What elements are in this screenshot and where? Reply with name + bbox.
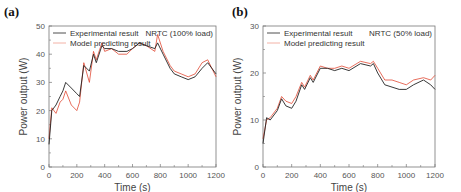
x-tick-label: 600 xyxy=(342,171,356,180)
model-series-line xyxy=(49,35,216,139)
x-tick-label: 1200 xyxy=(426,171,444,180)
y-axis-title: Power output (W) xyxy=(18,58,29,136)
x-tick-label: 1000 xyxy=(397,171,415,180)
y-axis-title: Power output (W) xyxy=(232,58,243,136)
x-tick-label: 800 xyxy=(371,171,385,180)
y-tick-label: 50 xyxy=(36,22,45,31)
x-tick-label: 1200 xyxy=(207,171,225,180)
y-tick-label: 30 xyxy=(36,78,45,87)
x-axis-title: Time (s) xyxy=(331,182,367,192)
x-tick-label: 600 xyxy=(126,171,140,180)
y-tick-label: 10 xyxy=(250,116,259,125)
legend-experimental-label: Experimental result xyxy=(284,29,353,38)
x-tick-label: 400 xyxy=(98,171,112,180)
y-tick-label: 20 xyxy=(250,69,259,78)
y-tick-label: 10 xyxy=(36,135,45,144)
x-tick-label: 200 xyxy=(285,171,299,180)
legend-model-label: Model predicting result xyxy=(284,39,365,48)
experimental-series-line xyxy=(49,43,216,144)
x-tick-label: 800 xyxy=(154,171,168,180)
y-tick-label: 30 xyxy=(250,22,259,31)
chart-a: 02004006008001000120001020304050Time (s)… xyxy=(0,0,230,192)
x-tick-label: 200 xyxy=(70,171,84,180)
legend-model-label: Model predicting result xyxy=(70,39,151,48)
x-tick-label: 0 xyxy=(47,171,52,180)
y-tick-label: 40 xyxy=(36,50,45,59)
chart-panel-a: (a) 02004006008001000120001020304050Time… xyxy=(0,0,230,192)
experimental-series-line xyxy=(263,64,435,144)
condition-annotation: NRTC (100% load) xyxy=(146,29,214,38)
x-tick-label: 0 xyxy=(261,171,266,180)
chart-panel-b: (b) 0200400600800100012000102030Time (s)… xyxy=(230,0,461,192)
y-tick-label: 0 xyxy=(41,163,46,172)
legend-experimental-label: Experimental result xyxy=(70,29,139,38)
y-tick-label: 0 xyxy=(255,163,260,172)
y-tick-label: 20 xyxy=(36,107,45,116)
condition-annotation: NRTC (50% load) xyxy=(369,29,432,38)
x-axis-title: Time (s) xyxy=(114,182,150,192)
x-tick-label: 400 xyxy=(314,171,328,180)
chart-b: 0200400600800100012000102030Time (s)Powe… xyxy=(230,0,461,192)
x-tick-label: 1000 xyxy=(179,171,197,180)
model-series-line xyxy=(263,61,435,139)
